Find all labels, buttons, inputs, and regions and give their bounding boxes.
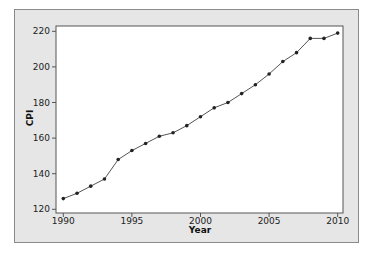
x-tick-label: 2005: [258, 216, 281, 226]
data-point-marker: [212, 106, 216, 110]
data-point-marker: [295, 51, 299, 55]
data-point-marker: [226, 101, 230, 105]
data-point-marker: [144, 142, 148, 146]
data-point-marker: [336, 31, 340, 35]
data-point-marker: [199, 115, 203, 119]
data-point-marker: [89, 184, 93, 188]
x-tick-label: 2010: [326, 216, 349, 226]
data-point-marker: [62, 197, 66, 201]
data-point-marker: [185, 124, 189, 128]
data-point-marker: [116, 158, 120, 162]
y-tick-label: 220: [33, 26, 50, 36]
data-point-marker: [130, 149, 134, 153]
data-point-marker: [281, 60, 285, 64]
data-point-marker: [158, 135, 162, 139]
data-point-marker: [322, 37, 326, 41]
y-axis: 120140160180200220: [33, 26, 56, 214]
data-point-marker: [240, 92, 244, 96]
y-tick-label: 180: [33, 98, 50, 108]
y-axis-title: CPI: [25, 110, 35, 127]
y-tick-label: 160: [33, 133, 50, 143]
data-point-marker: [308, 37, 312, 41]
line-chart: 120140160180200220 19901995200020052010 …: [0, 0, 370, 255]
data-point-marker: [267, 72, 271, 76]
data-point-marker: [103, 177, 107, 181]
plot-area: [56, 26, 343, 213]
data-point-marker: [75, 191, 79, 195]
y-tick-label: 200: [33, 62, 50, 72]
x-axis-title: Year: [188, 225, 212, 235]
x-tick-label: 1990: [52, 216, 75, 226]
data-point-marker: [171, 131, 175, 135]
y-tick-label: 140: [33, 169, 50, 179]
x-tick-label: 1995: [120, 216, 143, 226]
y-tick-label: 120: [33, 204, 50, 214]
data-point-marker: [254, 83, 258, 87]
